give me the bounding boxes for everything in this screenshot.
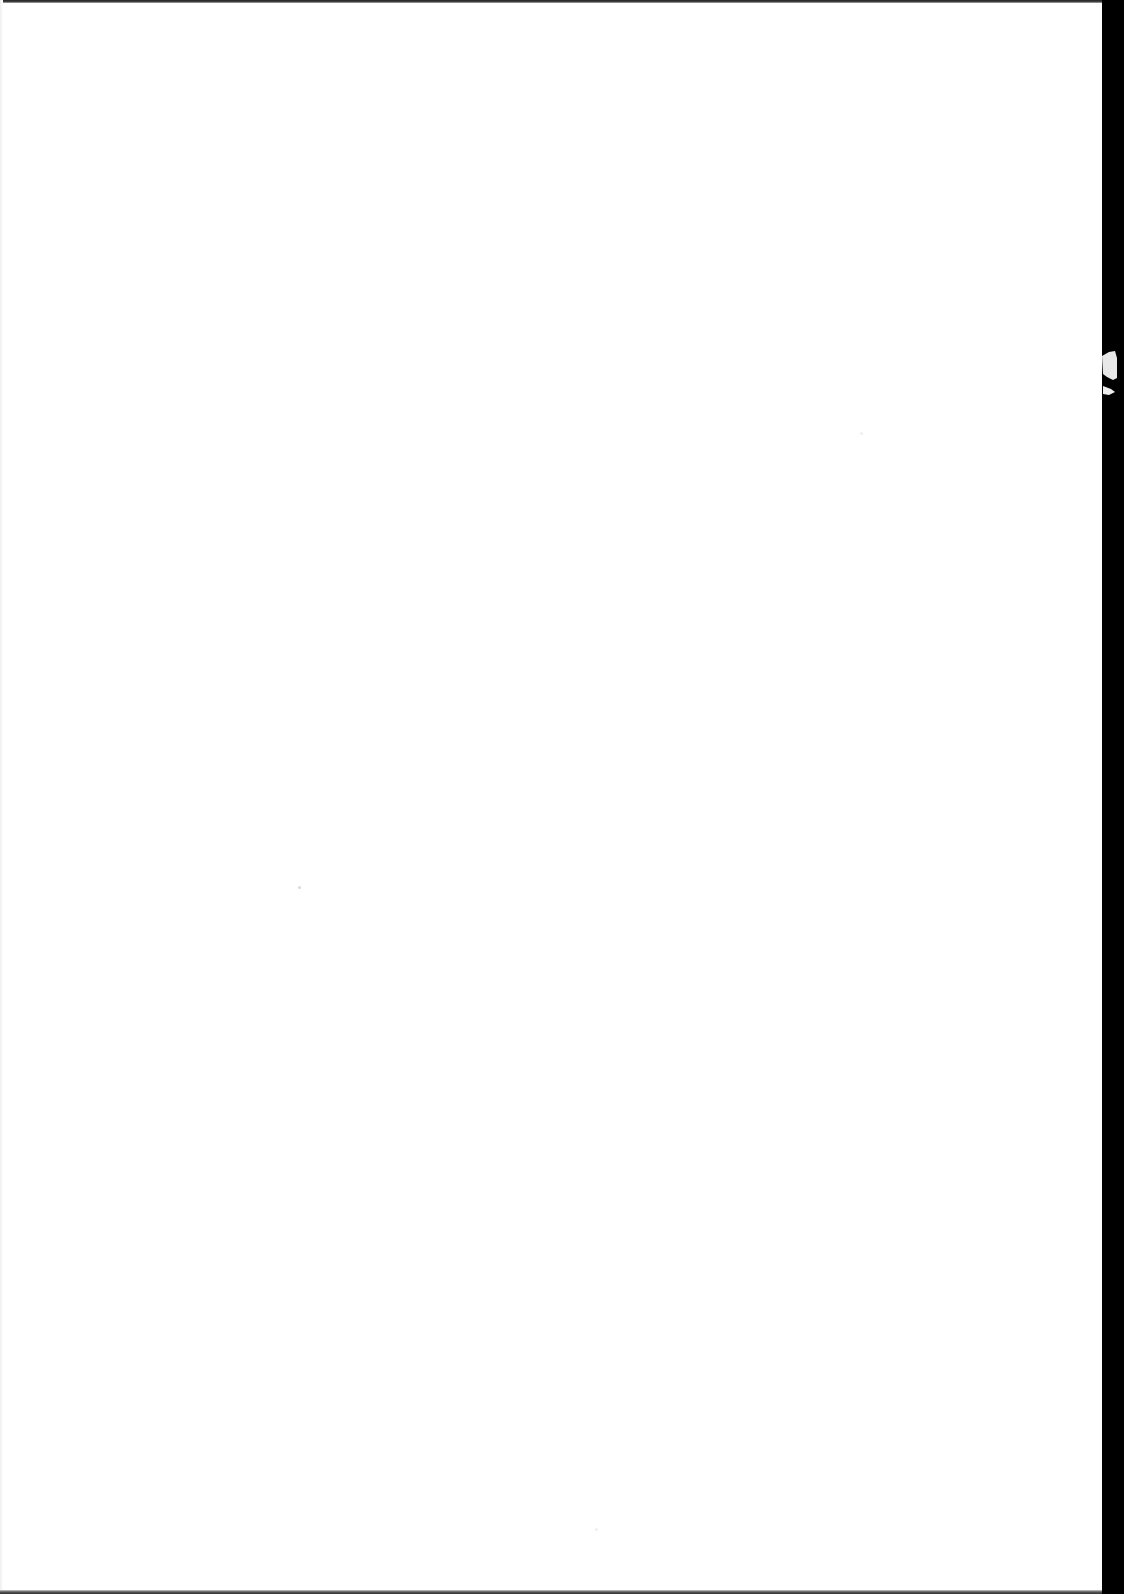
blank-page <box>0 0 1102 1594</box>
dust-speck <box>298 886 301 889</box>
dust-speck <box>595 1528 598 1531</box>
left-edge-shadow <box>0 0 3 1594</box>
scan-border-right <box>1102 0 1124 1594</box>
dust-speck <box>860 432 863 435</box>
torn-paper-artifact <box>1101 350 1119 406</box>
bottom-edge-shadow <box>0 1590 1102 1594</box>
top-edge-shadow <box>0 0 1102 3</box>
